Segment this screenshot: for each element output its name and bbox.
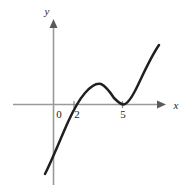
tick-label-0: 0 — [56, 108, 62, 120]
x-axis-arrowhead — [157, 101, 166, 109]
tick-label-5: 5 — [120, 108, 126, 120]
x-axis-label: x — [173, 99, 179, 111]
plot-canvas: y x 0 2 5 — [0, 0, 189, 192]
tick-label-2: 2 — [74, 108, 80, 120]
y-axis-arrowhead — [50, 19, 58, 28]
graph-figure: y x 0 2 5 — [0, 0, 189, 192]
y-axis-label: y — [44, 5, 50, 17]
function-curve — [45, 45, 159, 174]
